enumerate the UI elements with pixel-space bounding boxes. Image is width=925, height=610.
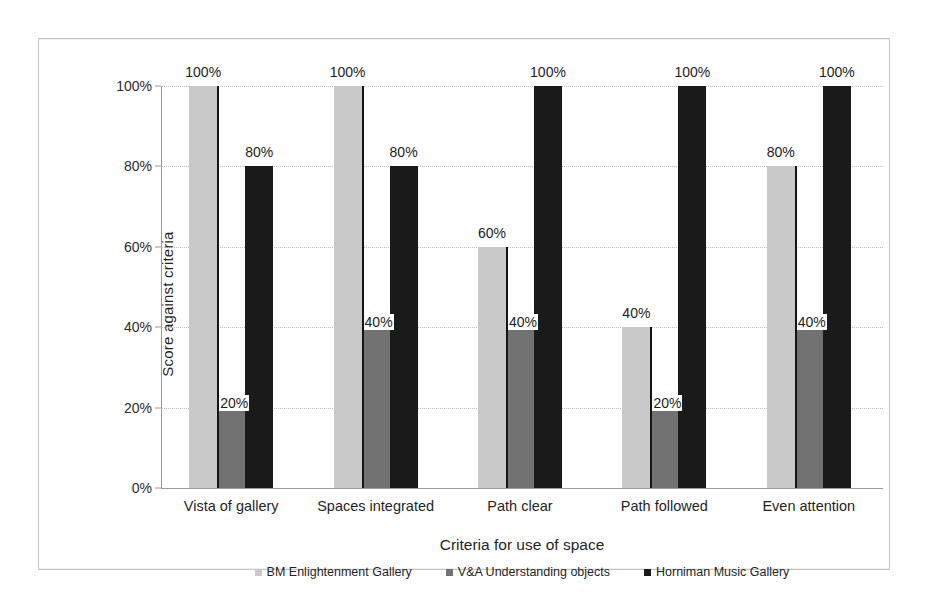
chart-legend: BM Enlightenment GalleryV&A Understandin… [161, 565, 883, 579]
bar-data-label: 100% [529, 64, 567, 80]
chart-frame: Score against criteria 0%20%40%60%80%100… [38, 38, 890, 570]
legend-swatch-icon [446, 569, 453, 576]
bar-2[interactable] [390, 166, 418, 488]
x-category-label: Path clear [487, 498, 552, 514]
bar-group: 100%40%80% [305, 86, 449, 488]
bar-group: 80%40%100% [739, 86, 883, 488]
bar-data-label: 40% [621, 305, 651, 321]
bar-1[interactable] [362, 327, 390, 488]
bar-0[interactable] [334, 86, 362, 488]
bar-2[interactable] [823, 86, 851, 488]
bar-0[interactable] [189, 86, 217, 488]
bar-2[interactable] [534, 86, 562, 488]
bar-2[interactable] [245, 166, 273, 488]
y-tick-label: 60% [124, 239, 152, 255]
bar-data-label: 100% [673, 64, 711, 80]
x-axis-title: Criteria for use of space [161, 536, 883, 554]
bar-1[interactable] [506, 327, 534, 488]
gridline [161, 488, 883, 489]
va-bar-edge [362, 86, 364, 488]
bar-0[interactable] [622, 327, 650, 488]
y-tick-label: 0% [132, 480, 152, 496]
bar-group: 100%20%80% [161, 86, 305, 488]
bar-group: 60%40%100% [450, 86, 594, 488]
legend-swatch-icon [255, 569, 262, 576]
y-tick-label: 100% [116, 78, 152, 94]
bar-data-label: 60% [477, 225, 507, 241]
bar-0[interactable] [478, 247, 506, 488]
va-bar-edge [217, 86, 219, 488]
bar-data-label: 80% [389, 144, 419, 160]
va-bar-edge [506, 247, 508, 488]
y-tick-label: 40% [124, 319, 152, 335]
x-category-label: Spaces integrated [317, 498, 434, 514]
bar-data-label: 100% [818, 64, 856, 80]
bar-0[interactable] [767, 166, 795, 488]
bar-1[interactable] [650, 408, 678, 488]
bar-data-label: 20% [652, 395, 682, 411]
bar-data-label: 40% [508, 314, 538, 330]
bar-2[interactable] [678, 86, 706, 488]
legend-label: BM Enlightenment Gallery [267, 565, 412, 579]
scan-edge [39, 39, 889, 40]
x-category-label: Even attention [762, 498, 855, 514]
plot-area: 0%20%40%60%80%100% 100%20%80%100%40%80%6… [161, 86, 883, 488]
legend-item[interactable]: Horniman Music Gallery [644, 565, 789, 579]
bar-data-label: 100% [184, 64, 222, 80]
legend-swatch-icon [644, 569, 651, 576]
bar-data-label: 40% [797, 314, 827, 330]
bar-data-label: 80% [244, 144, 274, 160]
y-tick-label: 20% [124, 400, 152, 416]
bar-data-label: 80% [766, 144, 796, 160]
bar-1[interactable] [795, 327, 823, 488]
legend-label: V&A Understanding objects [458, 565, 610, 579]
y-tick-label: 80% [124, 158, 152, 174]
legend-item[interactable]: V&A Understanding objects [446, 565, 610, 579]
legend-item[interactable]: BM Enlightenment Gallery [255, 565, 412, 579]
legend-label: Horniman Music Gallery [656, 565, 789, 579]
bar-data-label: 40% [364, 314, 394, 330]
bar-data-label: 100% [329, 64, 367, 80]
bar-group: 40%20%100% [594, 86, 738, 488]
x-category-label: Vista of gallery [184, 498, 279, 514]
bar-data-label: 20% [219, 395, 249, 411]
x-category-label: Path followed [621, 498, 708, 514]
bar-1[interactable] [217, 408, 245, 488]
